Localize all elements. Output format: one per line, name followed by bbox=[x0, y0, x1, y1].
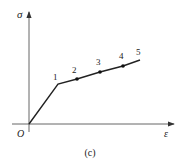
point-3-marker bbox=[98, 70, 102, 74]
point-2-label: 2 bbox=[72, 65, 77, 75]
stress-strain-curve bbox=[29, 60, 140, 124]
stress-strain-diagram: σ ε O 1 2 3 4 5 (c) bbox=[0, 0, 180, 162]
x-axis-label: ε bbox=[164, 128, 168, 139]
figure-caption: (c) bbox=[84, 147, 95, 159]
point-2-marker bbox=[75, 77, 79, 81]
origin-label: O bbox=[17, 128, 24, 139]
y-axis-label: σ bbox=[17, 8, 23, 20]
point-5-label: 5 bbox=[136, 47, 141, 57]
point-4-marker bbox=[121, 64, 125, 68]
point-3-label: 3 bbox=[96, 57, 101, 67]
point-4-label: 4 bbox=[119, 51, 124, 61]
point-1-label: 1 bbox=[53, 72, 58, 82]
